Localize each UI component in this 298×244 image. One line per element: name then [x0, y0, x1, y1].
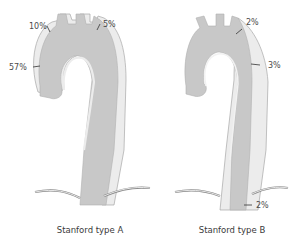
caption-type-b: Stanford type B: [199, 225, 266, 235]
true-lumen-a: [39, 14, 118, 205]
aortic-dissection-diagram: 10% 5% 57% Stanford type A 2% 3% 2% Stan…: [0, 0, 298, 244]
true-lumen-b: [185, 14, 252, 210]
label-57pct: 57%: [9, 63, 27, 72]
label-2pct-abd: 2%: [256, 201, 269, 210]
label-3pct: 3%: [268, 61, 281, 70]
label-10pct: 10%: [29, 22, 47, 31]
label-2pct-arch: 2%: [246, 18, 259, 27]
diaphragm-left-a: [35, 190, 80, 198]
panel-type-b: 2% 3% 2% Stanford type B: [175, 14, 288, 235]
caption-type-a: Stanford type A: [57, 225, 124, 235]
label-5pct: 5%: [103, 20, 116, 29]
panel-type-a: 10% 5% 57% Stanford type A: [9, 14, 150, 235]
